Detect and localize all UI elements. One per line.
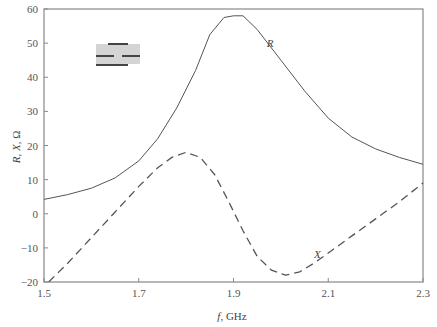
x-tick-label: 2.1 (321, 287, 335, 299)
y-axis-label: R, X, Ω (10, 131, 22, 165)
y-tick-label: 30 (27, 105, 39, 117)
y-tick-label: 0 (33, 208, 39, 220)
curve-labels: RX (266, 37, 322, 261)
y-tick-label: 60 (27, 3, 39, 15)
y-tick-label: 10 (27, 174, 39, 186)
y-tick-label: 20 (27, 140, 39, 152)
curve-x (49, 152, 423, 282)
x-tick-label: 2.3 (416, 287, 430, 299)
x-axis-label: f, GHz (217, 310, 246, 322)
x-tick-label: 1.7 (132, 287, 146, 299)
y-tick-label: −10 (21, 242, 39, 254)
y-tick-label: 50 (27, 37, 39, 49)
chart: 1.51.71.92.12.3−20−100102030405060 RX f,… (0, 0, 437, 327)
x-tick-label: 1.5 (37, 287, 51, 299)
axis-ticks: 1.51.71.92.12.3−20−100102030405060 (21, 3, 431, 299)
y-tick-label: −20 (21, 276, 39, 288)
inset-schematic-icon (96, 44, 140, 65)
y-tick-label: 40 (27, 71, 39, 83)
curve-r (44, 16, 423, 200)
curve-label-x: X (313, 248, 322, 260)
x-tick-label: 1.9 (227, 287, 241, 299)
inset-background (96, 44, 140, 64)
curve-label-r: R (266, 37, 274, 49)
